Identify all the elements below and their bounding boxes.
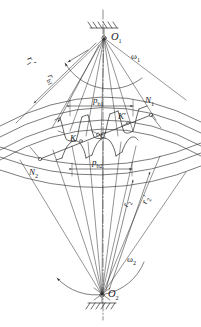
leader-rb1 [58,45,99,122]
label-n1: N1 [145,96,154,107]
gear1-radial-lines [16,38,186,140]
label-c: C [100,131,106,140]
label-omega1: ω1 [131,52,140,63]
label-n2: N2 [29,168,38,179]
ground-hatch-bottom [86,303,116,309]
label-pb1: pb1 [93,96,104,107]
label-pb2: pb2 [92,158,103,169]
leader-r1-prime [34,43,96,103]
point-k [80,140,83,143]
label-k: K [70,134,76,143]
gear-meshing-diagram: O1 O2 ω1 ω2 r1′ rb1 r2 r2′ N1 N2 K K′ C … [0,0,201,327]
label-o1: O1 [111,32,122,44]
label-omega2: ω2 [127,255,136,266]
leader-r2 [106,180,133,290]
label-k-prime: K′ [118,112,126,121]
label-o2: O2 [108,289,119,301]
